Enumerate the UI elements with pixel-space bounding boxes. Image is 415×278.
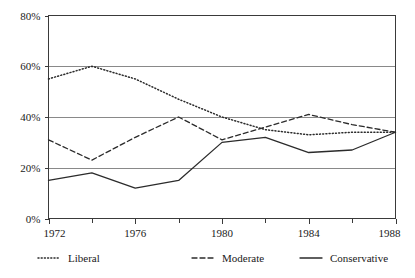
series-group [49, 66, 396, 188]
legend-label-moderate: Moderate [222, 252, 264, 264]
x-tick-label: 1972 [44, 227, 66, 239]
series-line-conservative [49, 132, 396, 188]
series-line-moderate [49, 114, 396, 160]
series-line-liberal [49, 66, 396, 135]
x-axis-tick-labels: 19721976198019841988 [44, 227, 402, 239]
y-tick-label: 40% [20, 111, 40, 123]
x-tick-label: 1980 [211, 227, 234, 239]
legend-label-conservative: Conservative [330, 252, 388, 264]
legend-label-liberal: Liberal [68, 252, 100, 264]
x-axis-ticks [45, 17, 397, 224]
line-chart: 0%20%40%60%80% 19721976198019841988 Libe… [0, 0, 415, 278]
chart-legend: LiberalModerateConservative [38, 252, 388, 264]
x-tick-label: 1988 [379, 227, 402, 239]
y-tick-label: 0% [26, 213, 41, 225]
y-axis-tick-labels: 0%20%40%60%80% [20, 10, 40, 225]
x-tick-label: 1984 [298, 227, 321, 239]
y-tick-label: 60% [20, 60, 40, 72]
y-tick-label: 20% [20, 162, 40, 174]
chart-canvas: 0%20%40%60%80% 19721976198019841988 Libe… [0, 0, 415, 278]
y-tick-label: 80% [20, 10, 40, 22]
x-tick-label: 1976 [124, 227, 147, 239]
